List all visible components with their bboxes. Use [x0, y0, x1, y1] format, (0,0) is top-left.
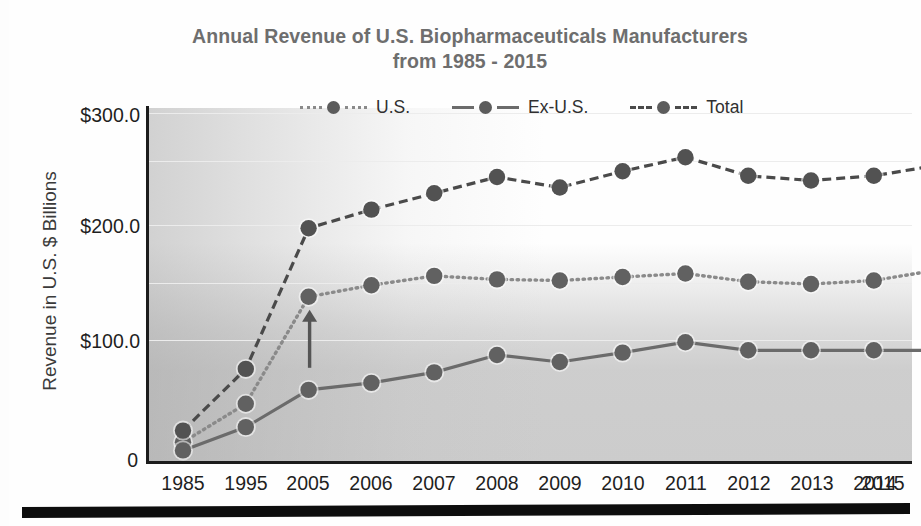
data-point[interactable]	[426, 364, 442, 380]
data-point[interactable]	[803, 172, 819, 188]
data-point[interactable]	[614, 163, 630, 179]
data-point[interactable]	[740, 274, 756, 290]
arrow-head	[302, 310, 317, 322]
data-point[interactable]	[614, 269, 630, 285]
data-point[interactable]	[552, 272, 568, 288]
data-point[interactable]	[363, 375, 379, 391]
chart-page: Annual Revenue of U.S. Biopharmaceutical…	[0, 0, 921, 526]
data-point[interactable]	[175, 422, 191, 438]
data-point[interactable]	[740, 342, 756, 358]
data-point[interactable]	[300, 289, 316, 305]
data-point[interactable]	[300, 382, 316, 398]
data-point[interactable]	[803, 342, 819, 358]
data-point[interactable]	[677, 265, 693, 281]
data-point[interactable]	[677, 334, 693, 350]
data-point[interactable]	[552, 179, 568, 195]
data-point[interactable]	[866, 168, 882, 184]
data-point[interactable]	[803, 276, 819, 292]
data-point[interactable]	[426, 268, 442, 284]
data-point[interactable]	[363, 201, 379, 217]
data-point[interactable]	[238, 419, 254, 435]
data-point[interactable]	[866, 342, 882, 358]
data-point[interactable]	[300, 220, 316, 236]
data-point[interactable]	[614, 344, 630, 360]
data-point[interactable]	[866, 272, 882, 288]
data-point[interactable]	[740, 168, 756, 184]
up-arrow-annotation	[302, 310, 317, 368]
data-point[interactable]	[489, 169, 505, 185]
series-layer	[0, 0, 921, 526]
data-point[interactable]	[677, 149, 693, 165]
data-point[interactable]	[426, 185, 442, 201]
data-point[interactable]	[489, 271, 505, 287]
data-point[interactable]	[175, 442, 191, 458]
data-point[interactable]	[238, 396, 254, 412]
series-ex-u-s-	[173, 332, 921, 460]
series-total	[173, 147, 921, 440]
data-point[interactable]	[489, 347, 505, 363]
data-point[interactable]	[552, 354, 568, 370]
data-point[interactable]	[238, 361, 254, 377]
data-point[interactable]	[363, 277, 379, 293]
